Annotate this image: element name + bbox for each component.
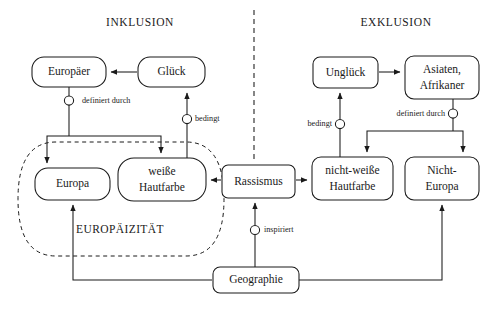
relation-label-bedingt-rechts: bedingt: [307, 119, 332, 128]
relation-circle: [448, 109, 457, 118]
node-rassismus-label: Rassismus: [234, 175, 283, 187]
node-glueck-label: Glück: [157, 65, 185, 77]
relation-circle: [250, 225, 259, 234]
section-title-inklusion: INKLUSION: [106, 16, 174, 28]
relation-label-bedingt-links: bedingt: [195, 114, 220, 123]
relation-label-definiert-durch-rechts: definiert durch: [397, 109, 445, 118]
relation-inspiriert: inspiriert: [250, 225, 294, 234]
section-title-exklusion: EXKLUSION: [360, 16, 431, 28]
relation-definiert-durch-links: definiert durch: [64, 96, 130, 105]
diagram-canvas: INKLUSION EXKLUSION EUROPÄIZITÄT: [0, 0, 494, 309]
node-geographie[interactable]: Geographie: [213, 267, 299, 293]
relation-circle: [335, 119, 344, 128]
node-geographie-label: Geographie: [229, 273, 283, 286]
zone-europaeizitaet-label: EUROPÄIZITÄT: [76, 222, 164, 235]
node-unglueck[interactable]: Unglück: [313, 57, 378, 88]
relation-bedingt-links: bedingt: [182, 114, 220, 123]
node-weisse-hautfarbe-label-line2: Hautfarbe: [139, 181, 185, 193]
relation-label-definiert-durch-links: definiert durch: [82, 96, 130, 105]
arrow-europaeer-to-europa: [47, 136, 69, 163]
node-asiaten-afrikaner[interactable]: Asiaten, Afrikaner: [405, 56, 479, 99]
node-europaeer[interactable]: Europäer: [32, 57, 106, 87]
node-nicht-europa[interactable]: Nicht- Europa: [405, 157, 479, 200]
node-asiaten-afrikaner-label-line1: Asiaten,: [423, 63, 461, 76]
node-unglueck-label: Unglück: [326, 66, 366, 79]
node-rassismus[interactable]: Rassismus: [222, 165, 295, 198]
relation-bedingt-rechts: bedingt: [307, 119, 344, 128]
relation-circle: [64, 96, 73, 105]
node-glueck[interactable]: Glück: [138, 57, 205, 87]
node-nicht-weisse-hautfarbe[interactable]: nicht-weiße Hautfarbe: [312, 157, 393, 200]
node-weisse-hautfarbe[interactable]: weiße Hautfarbe: [118, 158, 206, 201]
arrow-geographie-to-europa: [73, 205, 212, 280]
node-europa[interactable]: Europa: [35, 168, 110, 200]
relation-circle: [182, 114, 191, 123]
arrow-geographie-to-nicht-europa: [299, 205, 442, 280]
arrow-asiaten-to-nicht-europa: [453, 131, 463, 152]
node-nicht-europa-label-line1: Nicht-: [427, 164, 457, 176]
node-asiaten-afrikaner-label-line2: Afrikaner: [420, 79, 465, 91]
relation-label-inspiriert: inspiriert: [264, 225, 294, 234]
diagram-root: INKLUSION EXKLUSION EUROPÄIZITÄT: [0, 0, 494, 309]
arrow-asiaten-to-nicht-weisse-hautfarbe: [367, 131, 453, 152]
node-europaeer-label: Europäer: [48, 65, 90, 78]
node-weisse-hautfarbe-label-line1: weiße: [148, 165, 175, 177]
node-europa-label: Europa: [56, 177, 89, 190]
node-nicht-weisse-hautfarbe-label-line2: Hautfarbe: [330, 180, 376, 192]
node-nicht-weisse-hautfarbe-label-line1: nicht-weiße: [325, 164, 379, 176]
arrow-europaeer-to-weisse-hautfarbe: [69, 136, 161, 153]
node-nicht-europa-label-line2: Europa: [425, 180, 458, 193]
relation-definiert-durch-rechts: definiert durch: [397, 109, 458, 118]
